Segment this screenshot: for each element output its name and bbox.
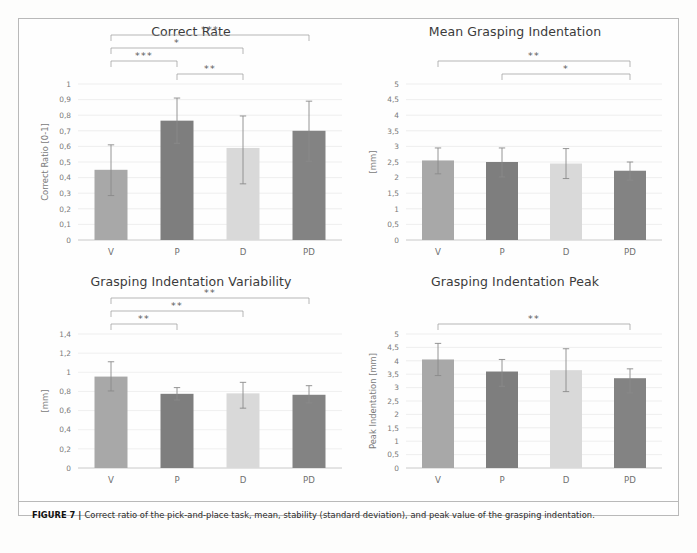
- x-axis-tick-label: D: [240, 475, 247, 485]
- significance-label: *: [174, 37, 180, 48]
- x-axis-tick-label: PD: [303, 247, 315, 257]
- x-axis-tick-label: V: [435, 475, 441, 485]
- x-axis-tick-label: P: [174, 247, 179, 257]
- chart-panel-grasping-indentation-peak: Grasping Indentation Peak 00,511,522,533…: [354, 272, 676, 500]
- y-axis-tick-label: 1,4: [59, 330, 71, 339]
- y-axis-tick-label: 0,8: [59, 111, 71, 120]
- y-axis-tick-label: 2,5: [387, 158, 399, 167]
- y-axis-tick-label: 4: [394, 357, 399, 366]
- significance-label: **: [171, 300, 183, 311]
- y-axis-tick-label: 1,5: [387, 189, 399, 198]
- chart-svg-grasping-indentation-peak: 00,511,522,533,544,55Peak Indentation [m…: [354, 272, 676, 500]
- y-axis-tick-label: 5: [394, 80, 399, 89]
- y-axis-tick-label: 0,5: [387, 450, 399, 459]
- x-axis-tick-label: V: [108, 247, 114, 257]
- x-axis-tick-label: P: [499, 247, 504, 257]
- significance-bracket-v-pd: ***: [111, 24, 309, 42]
- y-axis-tick-label: 3: [394, 142, 399, 151]
- significance-bracket-v-d: *: [111, 37, 243, 55]
- bar-pd: [614, 171, 646, 240]
- y-axis-tick-label: 0,5: [387, 220, 399, 229]
- y-axis-tick-label: 2: [394, 173, 399, 182]
- chart-svg-correct-rate: 00,10,20,30,40,50,60,70,80,91Correct Rat…: [26, 22, 356, 272]
- chart-svg-mean-grasping-indentation: 00,511,522,533,544,55[mm]VPDPD***: [354, 22, 676, 272]
- significance-bracket-v-p: **: [111, 313, 177, 331]
- y-axis-tick-label: 0,4: [59, 425, 71, 434]
- chart-panel-correct-rate: Correct Rate 00,10,20,30,40,50,60,70,80,…: [26, 22, 356, 272]
- y-axis-tick-label: 1: [66, 80, 71, 89]
- y-axis-tick-label: 0,6: [59, 406, 71, 415]
- y-axis-tick-label: 0,2: [59, 445, 71, 454]
- y-axis-tick-label: 0: [394, 236, 399, 245]
- chart-panel-mean-grasping-indentation: Mean Grasping Indentation 00,511,522,533…: [354, 22, 676, 272]
- y-axis-tick-label: 4,5: [387, 343, 399, 352]
- chart-panels: Correct Rate 00,10,20,30,40,50,60,70,80,…: [18, 18, 679, 501]
- y-axis-tick-label: 3: [394, 383, 399, 392]
- figure-caption-body: Correct ratio of the pick-and-place task…: [84, 510, 594, 520]
- y-axis-tick-label: 5: [394, 330, 399, 339]
- significance-bracket-v-pd: **: [438, 313, 630, 331]
- significance-label: *: [563, 63, 569, 74]
- significance-bracket-p-d: **: [177, 63, 243, 81]
- y-axis-tick-label: 0,7: [59, 127, 71, 136]
- significance-label: **: [528, 50, 540, 61]
- figure-caption-label: FIGURE 7 |: [32, 510, 81, 520]
- x-axis-tick-label: D: [563, 247, 570, 257]
- x-axis-tick-label: D: [240, 247, 247, 257]
- x-axis-tick-label: P: [499, 475, 504, 485]
- significance-bracket-p-pd: *: [502, 63, 630, 81]
- y-axis-tick-label: 4,5: [387, 95, 399, 104]
- y-axis-tick-label: 0,1: [59, 220, 71, 229]
- y-axis-tick-label: 0,8: [59, 387, 71, 396]
- x-axis-tick-label: PD: [624, 475, 636, 485]
- y-axis-tick-label: 0: [66, 464, 71, 473]
- y-axis-tick-label: 3,5: [387, 370, 399, 379]
- y-axis-tick-label: 3,5: [387, 127, 399, 136]
- figure-root: Correct Rate 00,10,20,30,40,50,60,70,80,…: [0, 0, 697, 553]
- significance-bracket-v-pd: **: [438, 50, 630, 68]
- y-axis-title: Peak Indentation [mm]: [368, 353, 378, 449]
- y-axis-tick-label: 4: [394, 111, 399, 120]
- chart-panel-grasping-indentation-variability: Grasping Indentation Variability 00,20,4…: [26, 272, 356, 500]
- chart-svg-grasping-indentation-variability: 00,20,40,60,811,21,4[mm]VPDPD******: [26, 272, 356, 500]
- significance-bracket-v-p: ***: [111, 50, 177, 68]
- y-axis-tick-label: 2,5: [387, 397, 399, 406]
- significance-label: **: [204, 287, 216, 298]
- significance-bracket-v-d: **: [111, 300, 243, 318]
- significance-label: ***: [201, 24, 219, 35]
- y-axis-tick-label: 0,4: [59, 173, 71, 182]
- x-axis-tick-label: P: [174, 475, 179, 485]
- significance-label: ***: [135, 50, 153, 61]
- bar-pd: [293, 395, 326, 468]
- y-axis-tick-label: 0,2: [59, 205, 71, 214]
- y-axis-tick-label: 1: [394, 437, 399, 446]
- y-axis-tick-label: 0: [394, 464, 399, 473]
- x-axis-tick-label: D: [563, 475, 570, 485]
- x-axis-tick-label: V: [435, 247, 441, 257]
- significance-label: **: [204, 63, 216, 74]
- significance-label: **: [528, 313, 540, 324]
- y-axis-tick-label: 0,6: [59, 142, 71, 151]
- y-axis-tick-label: 1,5: [387, 424, 399, 433]
- y-axis-tick-label: 1: [394, 205, 399, 214]
- x-axis-tick-label: V: [108, 475, 114, 485]
- y-axis-tick-label: 0,3: [59, 189, 71, 198]
- y-axis-title: [mm]: [368, 151, 378, 174]
- y-axis-tick-label: 1: [66, 368, 71, 377]
- y-axis-title: [mm]: [40, 390, 50, 413]
- x-axis-tick-label: PD: [303, 475, 315, 485]
- y-axis-tick-label: 0,5: [59, 158, 71, 167]
- figure-caption: FIGURE 7 |Correct ratio of the pick-and-…: [18, 501, 679, 529]
- y-axis-tick-label: 1,2: [59, 349, 71, 358]
- y-axis-tick-label: 0,9: [59, 95, 71, 104]
- significance-label: **: [138, 313, 150, 324]
- bar-p: [161, 394, 194, 468]
- y-axis-tick-label: 0: [66, 236, 71, 245]
- x-axis-tick-label: PD: [624, 247, 636, 257]
- y-axis-tick-label: 2: [394, 410, 399, 419]
- significance-bracket-v-pd: **: [111, 287, 309, 305]
- y-axis-title: Correct Ratio [0-1]: [40, 123, 50, 201]
